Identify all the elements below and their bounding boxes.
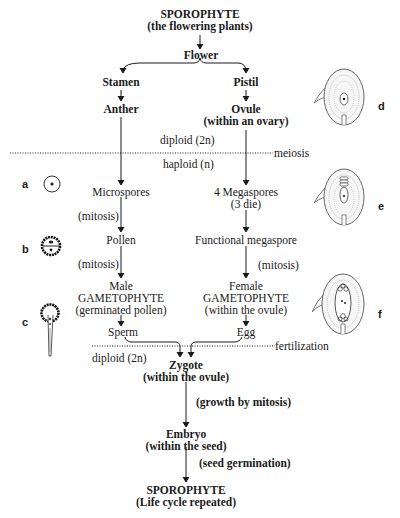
mitosis-label-2: (mitosis) [78, 258, 119, 270]
ovule-subtitle: (within an ovary) [204, 115, 289, 127]
female-gametophyte-line3: (within the ovule) [205, 304, 287, 316]
mitosis-label-3: (mitosis) [258, 259, 299, 271]
figure-label-d: d [378, 100, 385, 112]
ovule-node: Ovule [231, 103, 260, 115]
figure-label-e: e [378, 200, 384, 212]
figure-label-a: a [22, 178, 28, 190]
figure-label-b: b [22, 243, 29, 255]
pollen-grain-icon [38, 233, 64, 259]
zygote-subtitle: (within the ovule) [143, 371, 229, 383]
female-gametophyte-line1: Female [229, 280, 263, 292]
figure-label-c: c [22, 316, 28, 328]
germinated-pollen-icon [36, 302, 64, 362]
mitosis-label-1: (mitosis) [78, 210, 119, 222]
diploid-label-bottom: diploid (2n) [92, 352, 147, 364]
megaspores-node: 4 Megaspores [214, 186, 278, 198]
flower-node: Flower [184, 49, 218, 61]
pollen-node: Pollen [106, 234, 135, 246]
anther-node: Anther [103, 103, 138, 115]
sporophyte-title: SPOROPHYTE [160, 8, 239, 20]
megaspores-note: (3 die) [231, 198, 261, 210]
meiosis-label: meiosis [274, 147, 309, 159]
microspore-cell-icon [40, 172, 64, 196]
female-gametophyte-line2: GAMETOPHYTE [203, 292, 289, 304]
male-gametophyte-line2: GAMETOPHYTE [78, 292, 164, 304]
sporophyte-subtitle: (the flowering plants) [147, 20, 252, 32]
embryo-node: Embryo [166, 428, 206, 440]
sporophyte-final: SPOROPHYTE [146, 484, 225, 496]
egg-node: Egg [237, 326, 256, 338]
diploid-label-top: diploid (2n) [160, 134, 215, 146]
figure-label-f: f [378, 308, 382, 320]
male-gametophyte-line1: Male [109, 280, 133, 292]
ovule-icon [314, 65, 370, 133]
embryo-subtitle: (within the seed) [145, 440, 226, 452]
functional-megaspore-node: Functional megaspore [195, 234, 297, 246]
pistil-node: Pistil [234, 76, 259, 88]
haploid-label: haploid (n) [163, 158, 214, 170]
ovule-megaspores-icon [314, 165, 370, 233]
microspores-node: Microspores [92, 186, 150, 198]
germination-label: (seed germination) [199, 457, 291, 469]
male-gametophyte-line3: (germinated pollen) [75, 304, 166, 316]
growth-label: (growth by mitosis) [196, 396, 291, 408]
zygote-node: Zygote [169, 359, 203, 371]
stamen-node: Stamen [102, 76, 139, 88]
ovule-embryo-sac-icon [312, 270, 370, 342]
sperm-node: Sperm [108, 326, 138, 338]
sporophyte-final-subtitle: (Life cycle repeated) [136, 496, 236, 508]
